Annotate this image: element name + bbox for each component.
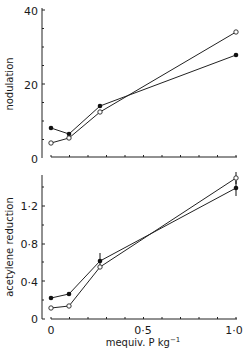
bottom-ytick-0-8: 0·8 <box>21 238 39 251</box>
bottom-series-filled-line <box>51 188 236 298</box>
bottom-ylabel: acetylene reduction <box>4 197 15 297</box>
bottom-ytick-1-2: 1·2 <box>21 200 39 213</box>
top-ylabel: nodulation <box>4 57 15 110</box>
top-panel: 40 20 0 nodulation <box>4 5 238 166</box>
figure: 40 20 0 nodulation <box>0 0 247 349</box>
top-ytick-0: 0 <box>31 153 38 166</box>
bottom-ytick-0: 0 <box>31 313 38 326</box>
bottom-error-bars <box>100 172 236 269</box>
top-ytick-20: 20 <box>24 79 38 92</box>
bottom-panel: 1·2 0·8 0·4 0 0 0·5 1·0 acetylene reduct… <box>4 172 243 348</box>
top-series-open-line <box>51 32 236 143</box>
bottom-open-markers <box>49 176 238 310</box>
bottom-xtick-1-0: 1·0 <box>225 324 243 337</box>
bottom-filled-markers <box>49 186 239 301</box>
bottom-series-open-line <box>51 178 236 308</box>
bottom-ytick-0-4: 0·4 <box>21 276 39 289</box>
bottom-xtick-0-5: 0·5 <box>134 324 152 337</box>
bottom-xtick-0: 0 <box>48 324 55 337</box>
top-series-filled-line <box>51 55 236 134</box>
bottom-xlabel: mequiv. P kg−1 <box>106 336 181 348</box>
top-ytick-40: 40 <box>24 5 38 18</box>
